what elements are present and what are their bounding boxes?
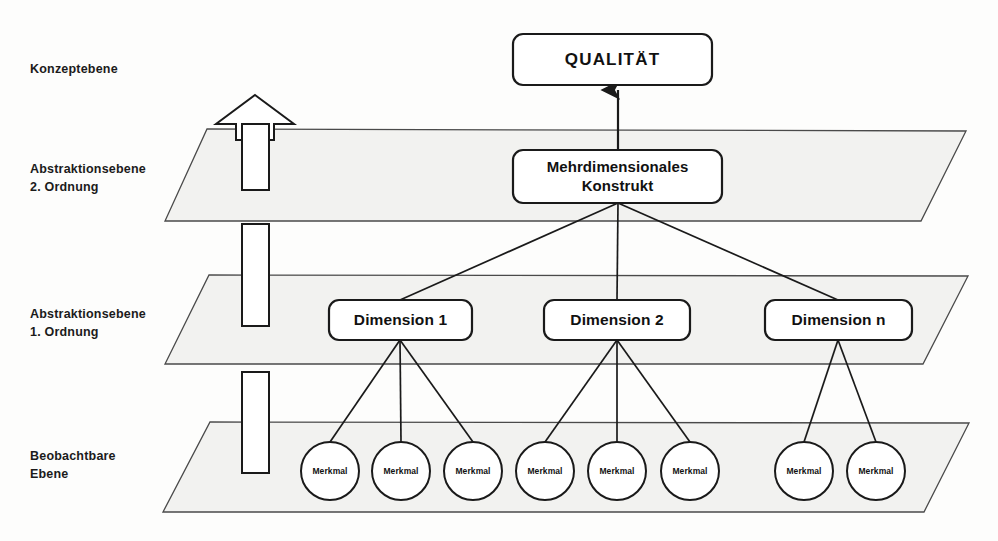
node-merkmal-n-1-shape[interactable] xyxy=(775,442,833,500)
abstraction-arrow-shaft-3 xyxy=(242,372,269,473)
node-merkmal-2-2-shape[interactable] xyxy=(588,442,646,500)
node-merkmal-2-3-shape[interactable] xyxy=(661,442,719,500)
diagram-vector-layer xyxy=(0,0,998,541)
level-label-abstraktion-2: Abstraktionsebene 2. Ordnung xyxy=(30,160,146,196)
abstraction-arrow-shaft-1 xyxy=(242,124,269,190)
node-dimension-1-shape[interactable] xyxy=(329,300,472,340)
level-label-konzeptebene: Konzeptebene xyxy=(30,60,118,78)
node-merkmal-1-3-shape[interactable] xyxy=(444,442,502,500)
node-merkmal-n-2-shape[interactable] xyxy=(847,442,905,500)
abstraction-arrow-shaft-2 xyxy=(242,224,269,326)
connector-konstrukt-to-dimension-2 xyxy=(617,203,618,300)
connector-dimension-to-merkmal-2 xyxy=(400,340,401,442)
node-qualitaet-shape[interactable] xyxy=(513,34,712,85)
node-merkmal-2-1-shape[interactable] xyxy=(516,442,574,500)
node-dimension-n-shape[interactable] xyxy=(765,300,912,340)
diagram-canvas: KonzeptebeneAbstraktionsebene 2. Ordnung… xyxy=(0,0,998,541)
level-label-abstraktion-1: Abstraktionsebene 1. Ordnung xyxy=(30,305,146,341)
node-dimension-2-shape[interactable] xyxy=(544,300,690,340)
node-merkmal-1-2-shape[interactable] xyxy=(372,442,430,500)
level-label-beobachtbare-ebene: Beobachtbare Ebene xyxy=(30,447,116,483)
node-merkmal-1-1-shape[interactable] xyxy=(301,442,359,500)
node-mehrdimensionales-konstrukt-shape[interactable] xyxy=(513,150,722,203)
